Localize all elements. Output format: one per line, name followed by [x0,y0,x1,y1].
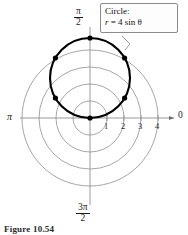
axis-label-3pi-over-2: 3π 2 [76,203,90,223]
axis-label-pi-over-2-denominator: 2 [74,18,83,28]
callout-equation: r = 4 sin θ [105,17,174,28]
marked-point-theta-0 [87,115,92,120]
marked-point-theta-150 [53,95,58,100]
axis-label-pi-over-2: π 2 [74,7,83,27]
polar-figure: π 2 3π 2 π 0 1 2 3 4 Circle: r = 4 sin θ… [0,0,188,235]
curve-annotation-callout: Circle: r = 4 sin θ [100,3,178,33]
polar-plot-canvas [0,0,188,235]
marked-point-theta-120 [53,55,58,60]
axis-label-pi: π [7,112,12,122]
radial-tick-label-4: 4 [155,121,159,131]
axis-label-3pi-over-2-denominator: 2 [76,214,90,224]
callout-equation-body: = 4 sin θ [109,17,142,27]
callout-title: Circle: [105,6,174,17]
marked-point-theta-60 [122,55,127,60]
marked-point-theta-30 [122,95,127,100]
axis-label-zero: 0 [178,111,183,121]
radial-tick-label-3: 3 [138,121,142,131]
marked-point-theta-90 [87,35,92,40]
radial-tick-label-2: 2 [121,121,125,131]
figure-caption: Figure 10.54 [4,224,54,234]
radial-tick-label-1: 1 [104,121,108,131]
callout-leader-line [122,36,130,50]
